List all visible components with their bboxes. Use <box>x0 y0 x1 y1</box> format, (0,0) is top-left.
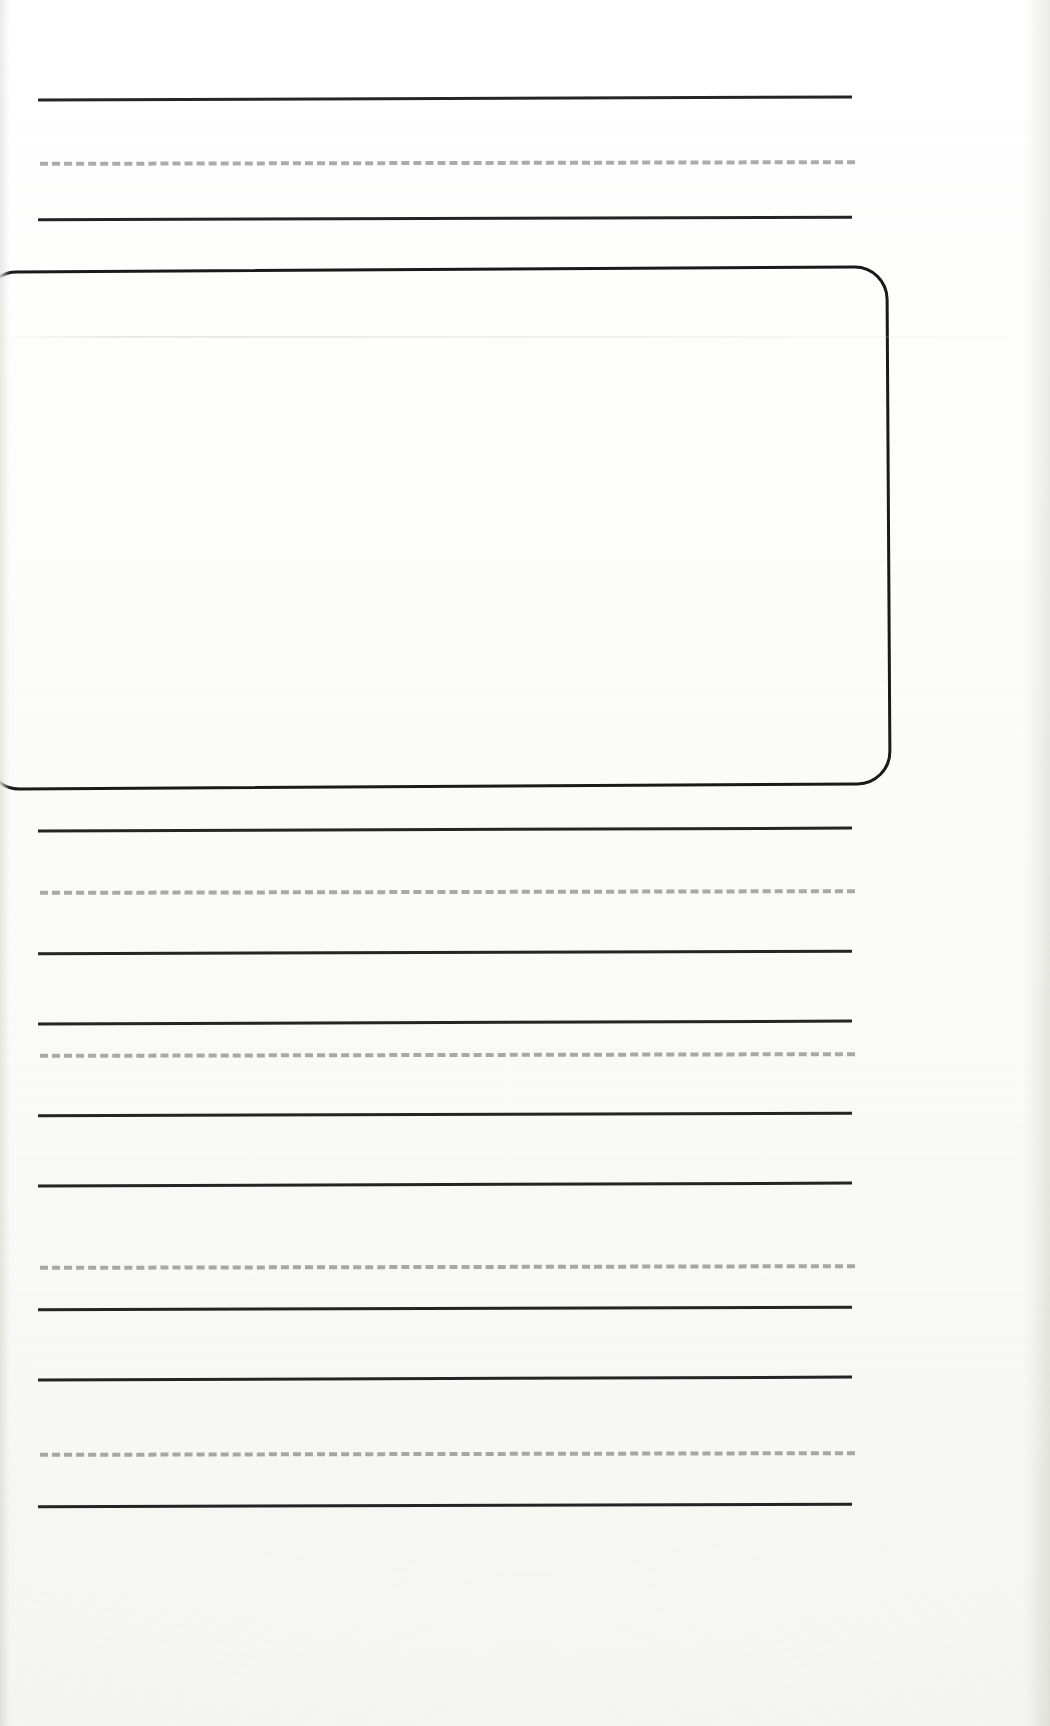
rule-dashed <box>40 1264 855 1270</box>
scan-edge-shadow-left <box>0 0 10 1726</box>
rule-dashed <box>40 889 855 895</box>
rule-solid <box>38 950 852 956</box>
scan-paper-tint <box>0 0 1050 1726</box>
rule-solid <box>38 1503 852 1509</box>
worksheet-page <box>0 0 1050 1726</box>
scan-edge-shadow-right <box>1024 0 1050 1726</box>
rule-solid <box>38 1182 852 1188</box>
rule-dashed <box>40 1052 855 1058</box>
drawing-box[interactable] <box>0 265 892 791</box>
rule-solid <box>38 1376 852 1382</box>
rule-solid <box>38 1020 852 1026</box>
page-title <box>0 0 1 1</box>
rule-solid <box>38 95 852 101</box>
rule-solid <box>38 216 852 222</box>
rule-solid <box>38 1306 852 1312</box>
rule-solid <box>38 827 852 833</box>
rule-dashed <box>40 160 855 166</box>
rule-dashed <box>40 1451 855 1457</box>
drawing-box-canvas[interactable] <box>0 268 889 787</box>
rule-solid <box>38 1112 852 1118</box>
